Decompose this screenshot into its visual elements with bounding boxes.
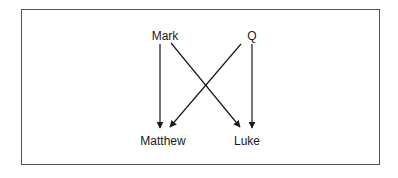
edges-layer: [0, 0, 398, 178]
node-luke: Luke: [234, 134, 260, 148]
node-matthew: Matthew: [140, 134, 185, 148]
node-q: Q: [247, 29, 256, 43]
node-mark: Mark: [152, 29, 179, 43]
